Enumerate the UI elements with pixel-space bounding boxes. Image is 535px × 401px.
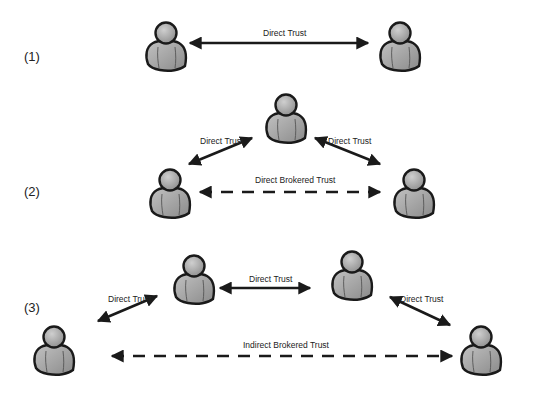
scenario-2-person-b-user-icon [394,170,434,218]
scenario-1-person-a-user-icon [146,23,186,71]
scenario-3-person-a-user-icon [34,327,74,375]
scenario-3-person-broker-2-user-icon [332,252,372,300]
scenario-2-person-broker-user-icon [266,95,306,143]
scenario-label-2: (2) [24,184,40,199]
scenario-2-direct-trust-left-label: Direct Trust [200,136,243,146]
scenario-3-direct-trust-middle-label: Direct Trust [249,274,292,284]
scenario-3-person-b-user-icon [461,327,501,375]
scenario-3-direct-trust-left-label: Direct Trust [108,294,151,304]
scenario-1-person-b-user-icon [380,23,420,71]
scenario-label-1: (1) [24,49,40,64]
scenario-3-person-broker-1-user-icon [174,256,214,304]
persons-layer [34,23,501,375]
scenario-2-person-a-user-icon [150,170,190,218]
scenario-2-direct-trust-right-label: Direct Trust [328,136,371,146]
scenario-3-direct-trust-right-label: Direct Trust [400,294,443,304]
scenario-2-direct-brokered-trust-label: Direct Brokered Trust [255,175,335,185]
scenario-3-indirect-brokered-trust-label: Indirect Brokered Trust [243,340,329,350]
scenario-label-3: (3) [24,300,40,315]
scenario-1-direct-trust-label: Direct Trust [263,28,306,38]
